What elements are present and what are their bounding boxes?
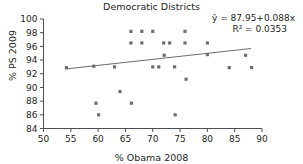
y-tick-label: 90 — [26, 83, 38, 93]
y-tick-label: 92 — [26, 69, 37, 79]
data-points — [65, 30, 253, 117]
y-tick-label: 98 — [26, 28, 38, 38]
data-point — [94, 102, 97, 105]
x-tick-label: 70 — [147, 134, 159, 144]
data-point — [151, 65, 154, 68]
y-tick-label: 96 — [26, 42, 38, 52]
x-tick-label: 60 — [92, 134, 104, 144]
data-point — [162, 41, 165, 44]
data-point — [151, 30, 154, 33]
y-axis: 8486889092949698100 — [20, 14, 43, 134]
data-point — [130, 102, 133, 105]
data-point — [244, 54, 247, 57]
data-point — [118, 90, 121, 93]
data-point — [92, 65, 95, 68]
data-point — [206, 41, 209, 44]
data-point — [173, 65, 176, 68]
data-point — [206, 53, 209, 56]
data-point — [184, 78, 187, 81]
y-tick-label: 88 — [26, 96, 38, 106]
y-tick-label: 100 — [20, 14, 37, 24]
data-point — [129, 30, 132, 33]
data-point — [174, 113, 177, 116]
x-axis: 505560657075808590 — [38, 129, 268, 144]
x-tick-label: 90 — [256, 134, 268, 144]
data-point — [157, 65, 160, 68]
data-point — [140, 30, 143, 33]
x-tick-label: 50 — [38, 134, 50, 144]
x-tick-label: 80 — [202, 134, 214, 144]
scatter-plot-svg: 8486889092949698100 505560657075808590 — [0, 0, 303, 164]
x-axis-tick-labels: 505560657075808590 — [38, 134, 268, 144]
data-point — [168, 41, 171, 44]
chart-container: Democratic Districts ŷ = 87.95+0.088x R²… — [0, 0, 303, 164]
data-point — [113, 65, 116, 68]
data-point — [65, 66, 68, 69]
data-point — [140, 41, 143, 44]
y-axis-tick-labels: 8486889092949698100 — [20, 14, 37, 134]
x-tick-label: 65 — [120, 134, 131, 144]
data-point — [129, 41, 132, 44]
data-point — [228, 66, 231, 69]
data-point — [163, 54, 166, 57]
data-point — [250, 66, 253, 69]
y-tick-label: 84 — [26, 124, 38, 134]
y-tick-label: 94 — [26, 55, 38, 65]
x-tick-label: 85 — [229, 134, 240, 144]
x-tick-label: 55 — [65, 134, 76, 144]
data-point — [183, 41, 186, 44]
data-point — [183, 30, 186, 33]
x-tick-label: 75 — [174, 134, 185, 144]
y-axis-ticks — [40, 19, 44, 129]
x-axis-ticks — [44, 129, 263, 133]
data-point — [97, 113, 100, 116]
y-tick-label: 86 — [26, 110, 38, 120]
